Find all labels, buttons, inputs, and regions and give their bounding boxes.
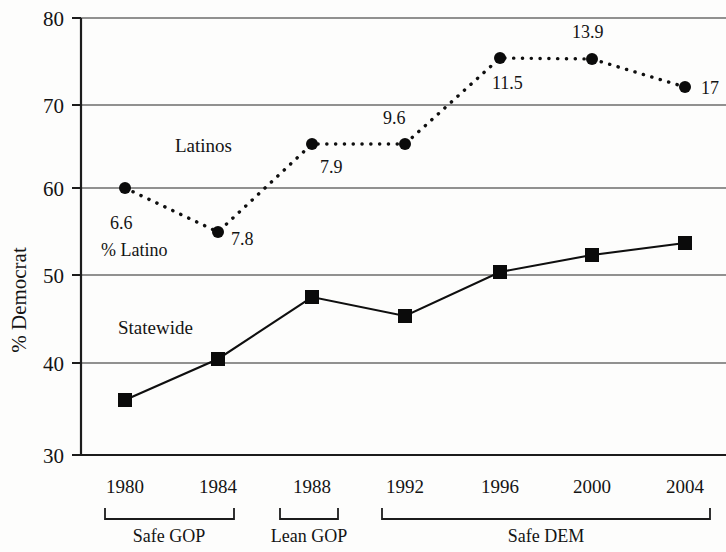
statewide-series-markers [118,236,692,407]
bracket-lean-gop [280,508,338,519]
xtick-label-1984: 1984 [199,476,238,497]
statewide-point-2000 [585,248,599,262]
ytick-label-70: 70 [43,94,64,118]
latinos-point-2000 [586,53,598,65]
latino-label-1984: 7.8 [231,229,254,249]
percent-latino-caption: % Latino [101,240,167,260]
bracket-label-safe-dem: Safe DEM [508,526,584,546]
statewide-point-1996 [493,265,507,279]
latino-label-2004: 17 [701,78,719,98]
statewide-point-2004 [678,236,692,250]
latinos-point-1984 [212,226,224,238]
latino-label-1992: 9.6 [383,108,406,128]
ytick-label-50: 50 [43,264,64,288]
xtick-label-1980: 1980 [106,476,144,497]
latinos-point-1980 [119,182,131,194]
axes [72,18,726,455]
xtick-label-2000: 2000 [573,476,611,497]
y-tick-labels: 80 70 60 50 40 30 [43,7,64,468]
x-tick-labels: 1980 1984 1988 1992 1996 2000 2004 [106,476,705,497]
ytick-label-30: 30 [43,444,64,468]
xtick-label-1992: 1992 [386,476,424,497]
bracket-safe-gop [105,508,234,519]
latinos-point-1996 [494,52,506,64]
line-chart: % Democrat 80 70 60 50 40 30 [0,0,726,552]
statewide-point-1980 [118,393,132,407]
ytick-label-60: 60 [43,177,64,201]
chart-page: % Democrat 80 70 60 50 40 30 [0,0,726,552]
bracket-label-safe-gop: Safe GOP [133,526,206,546]
latinos-series-label: Latinos [175,135,232,156]
ytick-label-80: 80 [43,7,64,31]
period-brackets: Safe GOP Lean GOP Safe DEM [105,508,710,546]
bracket-safe-dem [382,508,710,519]
xtick-label-2004: 2004 [666,476,705,497]
statewide-point-1992 [398,309,412,323]
latinos-point-1992 [399,138,411,150]
latino-label-1988: 7.9 [320,157,343,177]
latinos-point-2004 [679,81,691,93]
xtick-label-1996: 1996 [481,476,519,497]
statewide-point-1988 [305,290,319,304]
xtick-label-1988: 1988 [293,476,331,497]
statewide-series-label: Statewide [118,317,193,338]
latino-label-1996: 11.5 [492,73,523,93]
latinos-point-1988 [306,138,318,150]
bracket-label-lean-gop: Lean GOP [271,526,347,546]
latino-label-2000: 13.9 [572,22,604,42]
ytick-label-40: 40 [43,352,64,376]
latino-label-1980: 6.6 [110,213,133,233]
statewide-point-1984 [211,352,225,366]
y-axis-title: % Democrat [7,247,31,353]
